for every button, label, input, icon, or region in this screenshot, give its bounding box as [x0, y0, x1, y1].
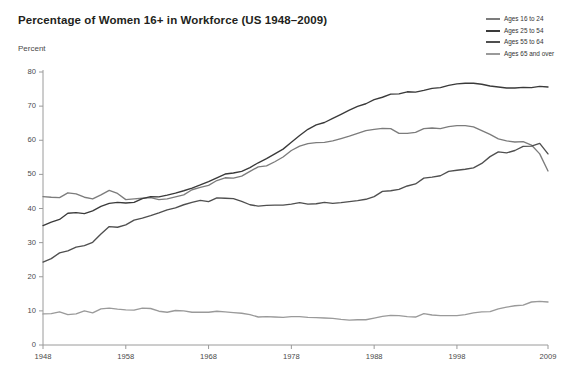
x-tick-label: 1948 [35, 352, 52, 361]
x-tick-label: 1978 [283, 352, 300, 361]
x-tick-label: 1998 [448, 352, 465, 361]
x-tick-label: 1988 [366, 352, 383, 361]
chart-container: Percentage of Women 16+ in Workforce (US… [0, 0, 565, 380]
series-line-0 [43, 126, 548, 200]
y-tick-label: 50 [28, 169, 36, 178]
x-tick-label: 1958 [117, 352, 134, 361]
x-tick-label: 2009 [540, 352, 557, 361]
y-tick-label: 20 [28, 272, 36, 281]
y-tick-label: 40 [28, 204, 36, 213]
series-line-3 [43, 301, 548, 320]
y-tick-label: 30 [28, 238, 36, 247]
y-tick-label: 80 [28, 67, 36, 76]
y-tick-label: 60 [28, 135, 36, 144]
series-line-1 [43, 83, 548, 225]
y-tick-label: 70 [28, 101, 36, 110]
y-tick-label: 10 [28, 306, 36, 315]
chart-plot-area: 0102030405060708019481958196819781988199… [0, 0, 565, 380]
y-tick-label: 0 [32, 340, 36, 349]
x-tick-label: 1968 [200, 352, 217, 361]
